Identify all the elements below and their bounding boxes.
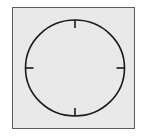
clock-circle xyxy=(26,20,125,116)
clock-face xyxy=(0,0,148,139)
